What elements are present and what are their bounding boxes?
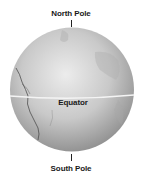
north-pole-label: North Pole — [0, 9, 142, 18]
north-pole-marker — [71, 20, 72, 27]
south-pole-label: South Pole — [0, 164, 142, 173]
south-pole-marker — [71, 154, 72, 161]
equator-label: Equator — [0, 98, 142, 107]
globe — [0, 0, 142, 180]
globe-sphere — [10, 28, 134, 152]
